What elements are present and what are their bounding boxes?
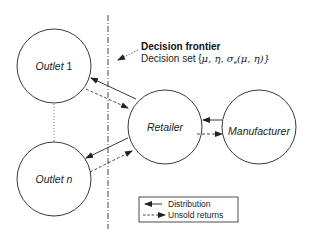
outlet-1-node: Outlet 1	[17, 29, 91, 103]
frontier-subtitle: Decision set {μ, η, σe(μ, η)}	[141, 53, 270, 65]
retailer-label: Retailer	[147, 121, 184, 133]
frontier-pointer-arrow	[118, 50, 138, 60]
svg-text:Outlet n: Outlet n	[36, 173, 73, 185]
outlet-1-label: Outlet	[36, 60, 65, 72]
manufacturer-node: Manufacturer	[222, 90, 296, 164]
frontier-title: Decision frontier	[141, 41, 221, 52]
retailer-node: Retailer	[128, 90, 202, 164]
outlet-n-node: Outlet n	[17, 142, 91, 216]
return-arrow-outletn-retailer	[90, 151, 132, 172]
outlet-n-label: Outlet	[36, 173, 65, 185]
svg-text:Outlet 1: Outlet 1	[36, 60, 73, 72]
supply-chain-diagram: Outlet 1 Outlet n Retailer Manufacturer …	[0, 0, 309, 237]
distribution-arrow-retailer-outlet1	[91, 78, 136, 99]
legend: Distribution Unsold returns	[139, 197, 238, 222]
legend-unsold-returns-label: Unsold returns	[168, 210, 223, 220]
legend-distribution-label: Distribution	[168, 199, 211, 209]
distribution-arrow-retailer-outletn	[86, 138, 128, 158]
manufacturer-label: Manufacturer	[228, 125, 290, 137]
